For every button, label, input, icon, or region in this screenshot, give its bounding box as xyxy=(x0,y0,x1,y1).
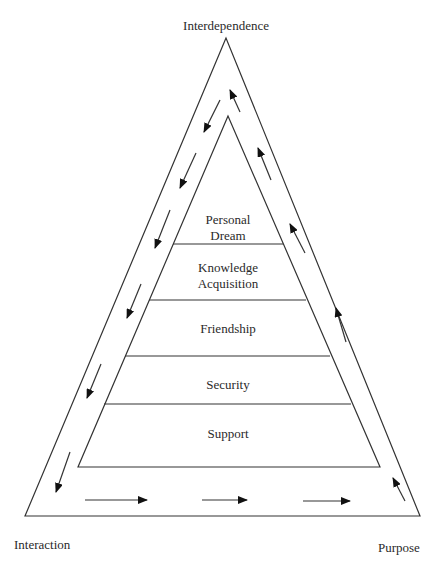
level-knowledge-acquisition: Knowledge Acquisition xyxy=(168,260,288,292)
level-support: Support xyxy=(168,426,288,442)
level-label-line2: Acquisition xyxy=(168,276,288,292)
corner-label-top: Interdependence xyxy=(166,18,286,34)
corner-label-bottom-right: Purpose xyxy=(378,540,448,556)
level-label-line1: Knowledge xyxy=(168,260,288,276)
level-label-line2: Dream xyxy=(178,228,278,244)
level-label-line1: Personal xyxy=(178,212,278,228)
level-friendship: Friendship xyxy=(168,321,288,337)
level-personal-dream: Personal Dream xyxy=(178,212,278,244)
level-security: Security xyxy=(168,377,288,393)
bottom-flow-arrows xyxy=(85,500,350,501)
corner-label-bottom-left: Interaction xyxy=(14,537,104,553)
